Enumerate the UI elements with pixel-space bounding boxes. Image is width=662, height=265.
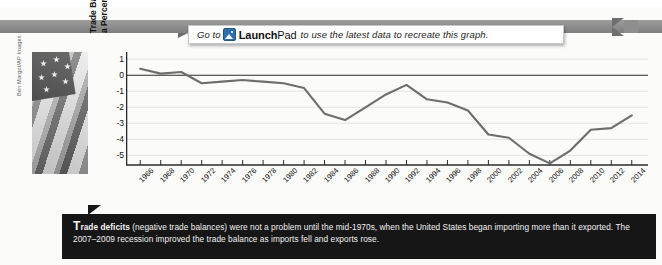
figure-page: Go to LaunchPad to use the latest data t… [0, 0, 662, 265]
y-axis-title-line2: a Percent of GDP [99, 0, 109, 33]
launchpad-brand: LaunchPad [239, 29, 297, 41]
ribbon-arrow-tip [612, 18, 624, 36]
launchpad-callout[interactable]: Go to LaunchPad to use the latest data t… [188, 25, 564, 44]
photo-credit: Ben Margot/AP Images [16, 16, 22, 96]
photo-shading [32, 52, 88, 174]
y-axis-title: Trade Balance as a Percent of GDP [88, 0, 110, 56]
y-tick-label: -1 [108, 86, 124, 96]
y-axis-title-line1: Trade Balance as [88, 0, 98, 33]
y-tick-label: -3 [108, 118, 124, 128]
y-tick-label: -5 [108, 150, 124, 160]
ribbon-fold-left [178, 33, 188, 38]
launchpad-suffix: to use the latest data to recreate this … [301, 29, 489, 40]
y-tick-label: -2 [108, 102, 124, 112]
y-tick-label: -4 [108, 134, 124, 144]
launchpad-brand-bold: Launch [239, 29, 278, 41]
launchpad-prefix: Go to [197, 29, 221, 40]
y-tick-label: 1 [108, 54, 124, 64]
caption-lead: rade deficits [80, 222, 130, 232]
launchpad-brand-thin: Pad [277, 29, 296, 41]
caption-text: Trade deficits (negative trade balances)… [73, 221, 645, 245]
ribbon-right-end [624, 20, 638, 33]
chart-plot-area [126, 50, 648, 185]
caption-box: Trade deficits (negative trade balances)… [62, 214, 656, 259]
line-chart: 10-1-2-3-4-5 [108, 50, 648, 185]
caption-rest: (negative trade balances) were not a pro… [73, 222, 630, 244]
launchpad-image-icon [223, 28, 236, 41]
y-tick-label: 0 [108, 70, 124, 80]
x-axis-tick-labels: 1966196819701972197419761978198019821984… [108, 176, 648, 210]
y-axis-tick-labels: 10-1-2-3-4-5 [108, 50, 124, 185]
american-flag-photo [32, 52, 88, 174]
